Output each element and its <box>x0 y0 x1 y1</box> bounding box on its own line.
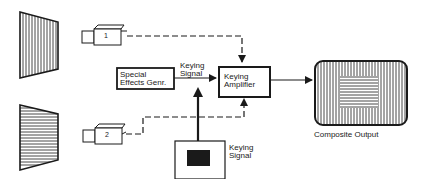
camera-2-label: 2 <box>105 131 109 138</box>
keysource-label-line2: Signal <box>229 152 251 160</box>
camera-1-label: 1 <box>104 32 108 39</box>
scene-2-horizontal-stripes <box>0 105 70 170</box>
composite-output-monitor <box>315 55 407 130</box>
edge-camera2-amp <box>126 99 244 134</box>
seg-label-line2: Effects Genr. <box>120 79 166 87</box>
amp-label-line2: Amplifier <box>224 81 255 89</box>
edge-camera1-amp <box>127 36 242 62</box>
keying-signal-source-box <box>175 141 225 179</box>
composite-output-label: Composite Output <box>314 131 378 139</box>
scene-1-vertical-stripes <box>20 0 58 90</box>
edge-label-line2: Signal <box>180 70 202 78</box>
diagram-canvas <box>0 0 426 179</box>
